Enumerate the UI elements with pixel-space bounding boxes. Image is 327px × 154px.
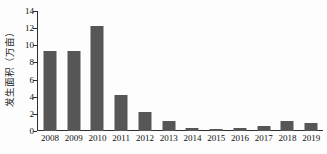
bar — [162, 121, 175, 131]
x-axis-tick-label: 2016 — [231, 132, 249, 144]
bar-slot — [276, 11, 300, 131]
bar-slot — [62, 11, 86, 131]
y-axis-tick-mark — [33, 114, 37, 115]
y-axis-title-label: 发生面积（万亩） — [2, 27, 16, 107]
bar — [43, 51, 56, 131]
y-axis-tick-mark — [33, 131, 37, 132]
bar-slot — [38, 11, 62, 131]
y-axis-tick-mark — [33, 97, 37, 98]
x-axis-tick-label: 2013 — [160, 132, 178, 144]
x-axis-tick-label: 2010 — [88, 132, 106, 144]
x-axis-tick-label: 2017 — [255, 132, 273, 144]
y-axis-tick-mark — [33, 45, 37, 46]
x-axis-tick-label: 2009 — [65, 132, 83, 144]
bar — [281, 121, 294, 131]
x-axis-tick-label: 2015 — [207, 132, 225, 144]
y-axis-tick-mark — [33, 62, 37, 63]
bar — [67, 51, 80, 131]
bar-slot — [299, 11, 323, 131]
bar-slot — [86, 11, 110, 131]
bar — [305, 123, 318, 131]
x-axis-tick-label: 2018 — [278, 132, 296, 144]
bar-slot — [133, 11, 157, 131]
y-axis-tick-mark — [33, 80, 37, 81]
bar — [257, 126, 270, 131]
x-axis-tick-label: 2011 — [112, 132, 130, 144]
x-axis-tick-label: 2012 — [136, 132, 154, 144]
bar-chart: 发生面积（万亩） 02468101214 2008200920102011201… — [0, 0, 327, 154]
bar — [91, 26, 104, 131]
bar-slot — [252, 11, 276, 131]
x-axis-tick-label: 2014 — [183, 132, 201, 144]
x-axis-tick-label: 2019 — [302, 132, 320, 144]
bar-slot — [157, 11, 181, 131]
bar — [233, 128, 246, 131]
bar — [210, 129, 223, 131]
bar-slot — [228, 11, 252, 131]
bar-slot — [181, 11, 205, 131]
y-axis-tick-mark — [33, 28, 37, 29]
x-axis-tick-label: 2008 — [41, 132, 59, 144]
bar — [186, 128, 199, 131]
bar-slot — [204, 11, 228, 131]
y-axis-title: 发生面积（万亩） — [0, 0, 18, 134]
bar — [138, 112, 151, 131]
y-axis-tick-mark — [33, 11, 37, 12]
plot-area — [38, 11, 323, 131]
bar — [115, 95, 128, 131]
x-axis-tick-labels: 2008200920102011201220132014201520162017… — [38, 132, 323, 146]
bar-slot — [109, 11, 133, 131]
